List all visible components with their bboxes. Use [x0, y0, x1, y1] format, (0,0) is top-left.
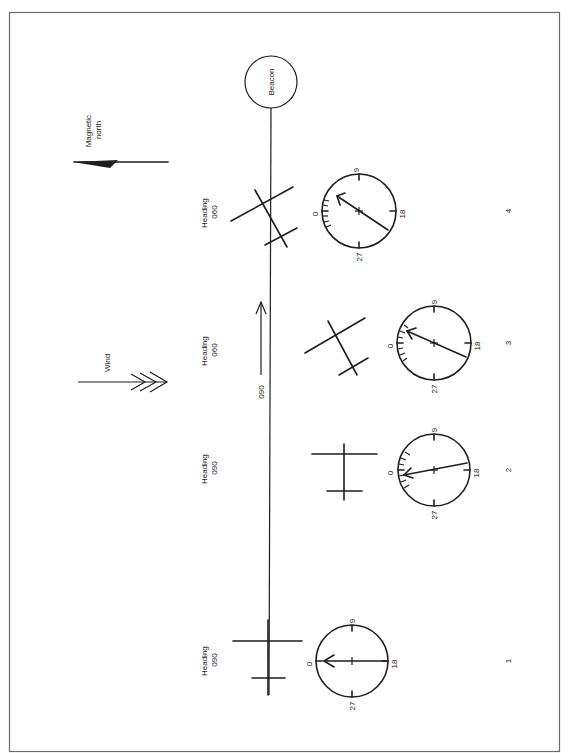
svg-text:0: 0 [386, 343, 395, 348]
wind-label: Wind [103, 354, 112, 372]
compass-icon: 9 18 27 0 [386, 299, 482, 393]
heading-label: Heading 090 [200, 452, 219, 484]
track-direction-arrow-icon [256, 302, 266, 375]
svg-text:0: 0 [311, 211, 320, 216]
compass-icon: 9 18 27 0 [386, 427, 481, 519]
aircraft-icon [312, 444, 377, 500]
position-4: Heading 060 9 18 27 0 [200, 167, 513, 261]
heading-label: Heading 060 [200, 334, 219, 366]
svg-text:27: 27 [355, 252, 364, 261]
compass-icon: 9 18 27 0 [311, 167, 407, 261]
heading-label: Heading 060 [200, 196, 219, 228]
position-number: 4 [504, 208, 513, 213]
position-number: 1 [504, 658, 513, 663]
svg-text:18: 18 [398, 209, 407, 218]
svg-text:0: 0 [305, 661, 314, 666]
heading-label: Heading 090 [200, 644, 219, 676]
svg-text:18: 18 [472, 468, 481, 477]
position-3: Heading 060 9 18 27 0 [200, 299, 513, 393]
svg-text:9: 9 [348, 618, 357, 623]
svg-text:18: 18 [473, 341, 482, 350]
svg-text:18: 18 [390, 659, 399, 668]
position-1: Heading 090 9 18 27 0 1 [200, 618, 513, 710]
position-number: 3 [504, 340, 513, 345]
svg-text:9: 9 [352, 167, 361, 172]
aircraft-icon [305, 318, 368, 375]
track-line [269, 108, 271, 695]
magnetic-north-label: Magnetic north [84, 113, 103, 148]
position-number: 2 [504, 467, 513, 472]
track-label: 090 [257, 385, 266, 399]
svg-text:0: 0 [386, 470, 395, 475]
svg-text:9: 9 [430, 299, 439, 304]
beacon-label: Beacon [267, 68, 276, 95]
svg-text:27: 27 [430, 384, 439, 393]
wind-arrow-icon [78, 372, 167, 392]
magnetic-north-arrow-icon [73, 160, 168, 168]
aircraft-icon [231, 187, 297, 247]
svg-text:9: 9 [430, 427, 439, 432]
position-2: Heading 090 9 18 27 0 [200, 427, 513, 519]
aircraft-icon [233, 620, 302, 695]
svg-text:27: 27 [430, 510, 439, 519]
wind-drift-diagram: Magnetic north Wind Beacon 090 Heading 0… [0, 0, 568, 753]
compass-icon: 9 18 27 0 [305, 618, 399, 710]
svg-text:27: 27 [348, 701, 357, 710]
